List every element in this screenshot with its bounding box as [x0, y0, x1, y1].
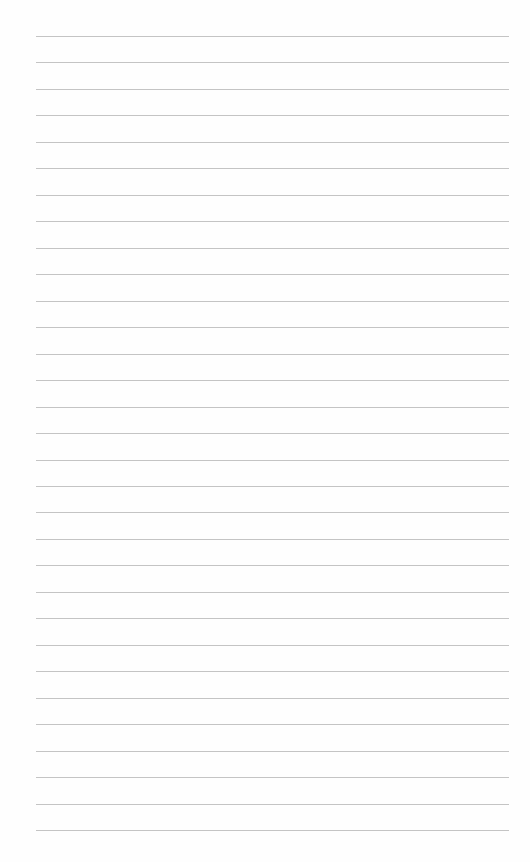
ruled-line — [36, 698, 509, 699]
ruled-line — [36, 433, 509, 434]
ruled-line — [36, 354, 509, 355]
ruled-line — [36, 830, 509, 831]
ruled-line — [36, 89, 509, 90]
ruled-line — [36, 486, 509, 487]
ruled-line — [36, 301, 509, 302]
ruled-line — [36, 274, 509, 275]
ruled-line — [36, 724, 509, 725]
notepaper-page — [0, 0, 530, 862]
ruled-line — [36, 142, 509, 143]
ruled-line — [36, 592, 509, 593]
ruled-line — [36, 248, 509, 249]
ruled-line — [36, 539, 509, 540]
ruled-line — [36, 460, 509, 461]
ruled-line — [36, 645, 509, 646]
ruled-line — [36, 36, 509, 37]
ruled-line — [36, 327, 509, 328]
ruled-line — [36, 565, 509, 566]
ruled-line — [36, 407, 509, 408]
ruled-line — [36, 512, 509, 513]
ruled-line — [36, 221, 509, 222]
ruled-line — [36, 804, 509, 805]
ruled-line — [36, 168, 509, 169]
ruled-line — [36, 115, 509, 116]
ruled-line — [36, 62, 509, 63]
ruled-line — [36, 751, 509, 752]
ruled-line — [36, 777, 509, 778]
ruled-line — [36, 618, 509, 619]
ruled-line — [36, 195, 509, 196]
ruled-line — [36, 671, 509, 672]
ruled-line — [36, 380, 509, 381]
